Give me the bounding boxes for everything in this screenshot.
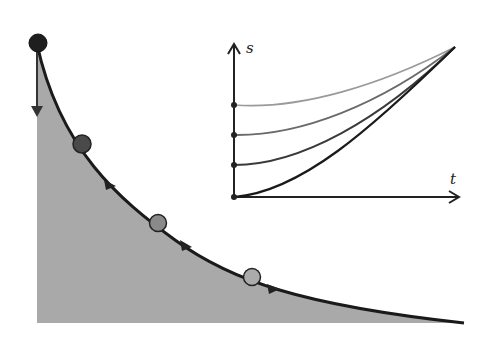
inset-curve-1 (234, 47, 455, 197)
ball-3-icon (150, 215, 167, 232)
start-point-icon (231, 194, 237, 200)
axis-label-s: s (246, 39, 254, 57)
ball-4-icon (244, 269, 261, 286)
axis-label-t: t (450, 170, 457, 188)
diagram-canvas: s t (0, 0, 495, 352)
start-point-icon (231, 132, 237, 138)
ball-2-icon (73, 135, 91, 153)
diagram-svg: s t (0, 0, 495, 352)
start-point-icon (231, 102, 237, 108)
ball-1-icon (29, 34, 47, 52)
inset-plot: s t (228, 39, 459, 203)
start-point-icon (231, 162, 237, 168)
